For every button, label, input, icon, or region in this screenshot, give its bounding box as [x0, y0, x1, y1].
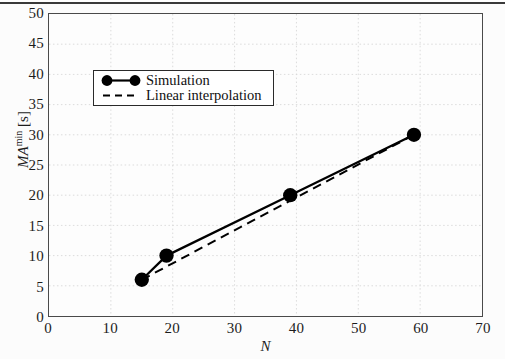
x-tick-label: 20 — [152, 320, 192, 337]
plot-area — [48, 13, 483, 317]
y-axis-title-superscript: min — [13, 131, 24, 147]
chart-figure: 05101520253035404550 MAmin [s] 010203040… — [0, 0, 505, 359]
y-axis-title-variable: MA — [15, 146, 31, 168]
x-axis-tick-labels: 010203040506070 — [48, 320, 483, 340]
legend-label-linear-interpolation: Linear interpolation — [144, 88, 262, 103]
data-series-layer — [49, 14, 482, 316]
x-tick-label: 50 — [339, 320, 379, 337]
y-tick-label: 10 — [10, 248, 44, 265]
chart-legend: Simulation Linear interpolation — [93, 70, 274, 106]
y-tick-label: 15 — [10, 217, 44, 234]
legend-key-simulation-icon — [98, 73, 144, 88]
x-tick-label: 60 — [401, 320, 441, 337]
legend-key-linear-interpolation-icon — [98, 88, 144, 103]
x-axis-title: N — [48, 338, 483, 355]
y-tick-label: 45 — [10, 35, 44, 52]
y-axis-title-unit: [s] — [15, 111, 31, 131]
x-tick-label: 0 — [28, 320, 68, 337]
y-tick-label: 5 — [10, 278, 44, 295]
x-tick-label: 40 — [277, 320, 317, 337]
legend-item-simulation: Simulation — [98, 73, 269, 88]
legend-label-simulation: Simulation — [144, 73, 210, 88]
y-axis-title: MAmin [s] — [13, 80, 32, 200]
x-tick-label: 70 — [463, 320, 503, 337]
y-tick-label: 50 — [10, 5, 44, 22]
x-tick-label: 30 — [214, 320, 254, 337]
x-tick-label: 10 — [90, 320, 130, 337]
legend-item-linear-interpolation: Linear interpolation — [98, 88, 269, 103]
